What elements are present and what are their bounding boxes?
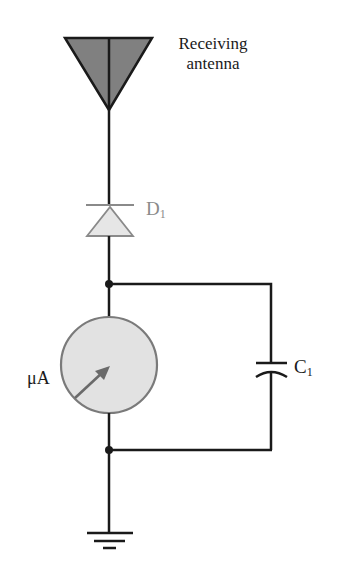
circuit-diagram — [0, 0, 337, 581]
capacitor-label-letter: C — [294, 356, 307, 377]
meter-label: μA — [27, 369, 50, 387]
capacitor-label-subscript: 1 — [307, 365, 313, 379]
antenna-label-line1: Receiving — [165, 34, 261, 54]
capacitor-label: C1 — [294, 357, 313, 378]
diode-icon — [86, 205, 134, 236]
antenna-label: Receiving antenna — [165, 34, 261, 74]
diode-label: D1 — [146, 199, 166, 220]
diode-label-subscript: 1 — [160, 207, 166, 221]
diode-label-letter: D — [146, 198, 160, 219]
antenna-icon — [65, 38, 152, 110]
antenna-label-line2: antenna — [165, 54, 261, 74]
ground-icon — [87, 533, 133, 548]
capacitor-icon — [256, 363, 287, 450]
microammeter-icon — [61, 317, 157, 413]
